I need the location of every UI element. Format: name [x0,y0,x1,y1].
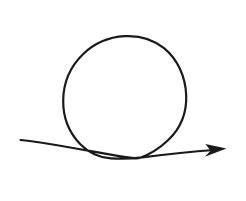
canvas-background [0,0,246,201]
looping-arrow-figure: Loop arrow [0,0,246,201]
drawing-canvas: Loop arrow [0,0,246,201]
